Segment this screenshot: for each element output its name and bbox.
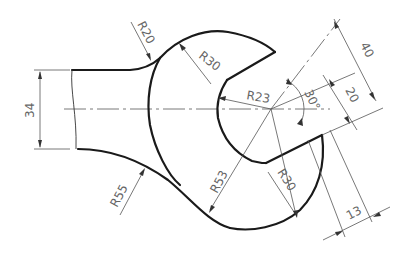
dim-20-label: 20 [342,85,362,105]
dimension-r53: R53 [207,109,271,213]
dimension-r30-lower: R30 [268,109,299,218]
dimension-handle-width: 34 [23,70,70,149]
wrench-drawing: 34 R20 R30 R23 30° 20 40 [0,0,409,262]
dim-40-label: 40 [357,40,377,60]
break-line [72,70,76,149]
dimension-r30-upper: R30 [179,43,223,84]
handle-top-edge [72,58,160,70]
lower-head-arc [230,135,323,229]
dimension-r55: R55 [107,168,145,215]
dimension-angle-30: 30° [286,78,323,126]
dim-r55-label: R55 [107,182,130,209]
upper-jaw-edge [227,52,275,80]
dim-r23-label: R23 [245,88,271,106]
dimension-jaw-offset: 13 [308,130,390,240]
dimension-r23: R23 [218,88,271,109]
dim-r20-label: R20 [134,19,157,46]
upper-head-arc [160,31,275,58]
dimension-r20: R20 [131,19,158,61]
dim-13-label: 13 [344,203,364,223]
head-outer-arc [148,58,180,185]
dim-r30-lower-label: R30 [274,166,298,193]
lower-jaw-edge [266,135,322,163]
dim-34-label: 34 [23,103,37,118]
